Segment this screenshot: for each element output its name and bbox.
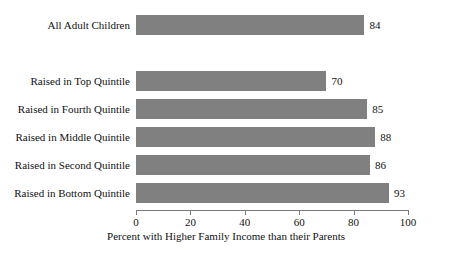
x-axis-tick-label-100: 100 (400, 217, 417, 228)
x-axis-tick-100 (408, 211, 409, 215)
x-axis-tick-60 (299, 211, 300, 215)
x-axis-tick-20 (190, 211, 191, 215)
bar-value-raised-in-second-quintile: 86 (375, 160, 386, 171)
category-label-raised-in-middle-quintile: Raised in Middle Quintile (15, 132, 130, 143)
bar-value-raised-in-middle-quintile: 88 (380, 132, 391, 143)
category-label-raised-in-bottom-quintile: Raised in Bottom Quintile (14, 188, 130, 199)
bar-raised-in-fourth-quintile (136, 99, 367, 119)
x-axis-tick-label-60: 60 (294, 217, 305, 228)
bar-chart: All Adult Children Raised in Top Quintil… (0, 0, 452, 256)
category-label-raised-in-second-quintile: Raised in Second Quintile (15, 160, 130, 171)
bar-raised-in-middle-quintile (136, 127, 375, 147)
bar-value-raised-in-bottom-quintile: 93 (394, 188, 405, 199)
bar-all-adult-children (136, 15, 364, 35)
x-axis-tick-label-20: 20 (185, 217, 196, 228)
bar-value-raised-in-fourth-quintile: 85 (372, 104, 383, 115)
x-axis-tick-0 (136, 211, 137, 215)
x-axis-tick-40 (245, 211, 246, 215)
x-axis-title: Percent with Higher Family Income than t… (0, 231, 452, 242)
bar-value-all-adult-children: 84 (369, 20, 380, 31)
x-axis-tick-label-80: 80 (348, 217, 359, 228)
bar-raised-in-second-quintile (136, 155, 370, 175)
bar-value-raised-in-top-quintile: 70 (331, 76, 342, 87)
category-label-all-adult-children: All Adult Children (48, 20, 131, 31)
plot-area: 84 70 85 88 86 93 (136, 0, 408, 210)
bar-raised-in-bottom-quintile (136, 183, 389, 203)
x-axis-tick-label-0: 0 (133, 217, 139, 228)
category-label-raised-in-top-quintile: Raised in Top Quintile (30, 76, 130, 87)
x-axis-tick-80 (354, 211, 355, 215)
category-label-raised-in-fourth-quintile: Raised in Fourth Quintile (18, 104, 130, 115)
bar-raised-in-top-quintile (136, 71, 326, 91)
x-axis-line (136, 210, 409, 211)
x-axis-tick-label-40: 40 (239, 217, 250, 228)
